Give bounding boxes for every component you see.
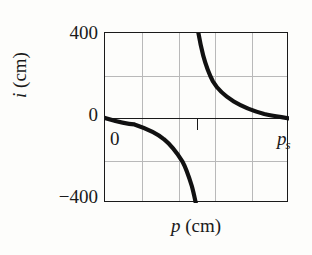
curve-svg <box>105 33 289 203</box>
figure-canvas: 400 0 −400 0 ps p (cm) i (cm) <box>0 0 312 255</box>
curve-left-branch <box>105 118 196 203</box>
y-tick-label-0: 0 <box>89 104 99 126</box>
y-axis-title-unit: (cm) <box>9 52 30 93</box>
y-tick-label-neg400: −400 <box>59 186 98 208</box>
curve-right-branch <box>198 33 289 118</box>
y-tick-label-400: 400 <box>70 22 99 44</box>
plot-area <box>104 32 288 202</box>
x-axis-title: p (cm) <box>104 215 288 237</box>
x-axis-title-var: p <box>171 215 181 236</box>
y-axis-title-wrapper: i (cm) <box>7 10 33 140</box>
y-axis-title-var: i <box>9 93 30 98</box>
x-axis-title-unit: (cm) <box>180 215 221 236</box>
y-axis-title: i (cm) <box>7 10 33 140</box>
